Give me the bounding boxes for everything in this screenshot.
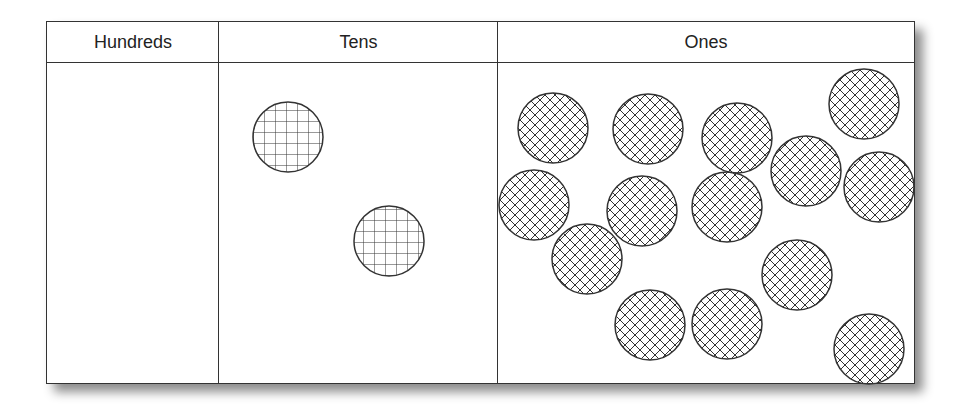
one-disk	[829, 69, 899, 139]
ten-disk	[354, 206, 424, 276]
one-disk	[615, 290, 685, 360]
one-disk	[518, 93, 588, 163]
ten-disk	[253, 102, 323, 172]
one-disk	[552, 224, 622, 294]
ones-disks	[499, 69, 914, 384]
one-disk	[762, 240, 832, 310]
one-disk	[692, 172, 762, 242]
one-disk	[702, 103, 772, 173]
one-disk	[499, 170, 569, 240]
one-disk	[834, 314, 904, 384]
one-disk	[844, 152, 914, 222]
one-disk	[613, 94, 683, 164]
one-disk	[607, 176, 677, 246]
disks-layer	[0, 0, 970, 411]
one-disk	[771, 136, 841, 206]
tens-disks	[253, 102, 424, 276]
one-disk	[692, 289, 762, 359]
